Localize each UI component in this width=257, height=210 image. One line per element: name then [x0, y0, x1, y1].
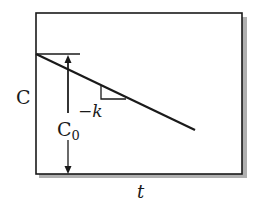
x-axis-label: t	[137, 181, 145, 202]
diagram-canvas: C t C0 −k	[0, 0, 257, 210]
plot-frame	[36, 13, 242, 174]
slope-label: −k	[78, 101, 103, 121]
y-axis-label: C	[16, 86, 31, 108]
